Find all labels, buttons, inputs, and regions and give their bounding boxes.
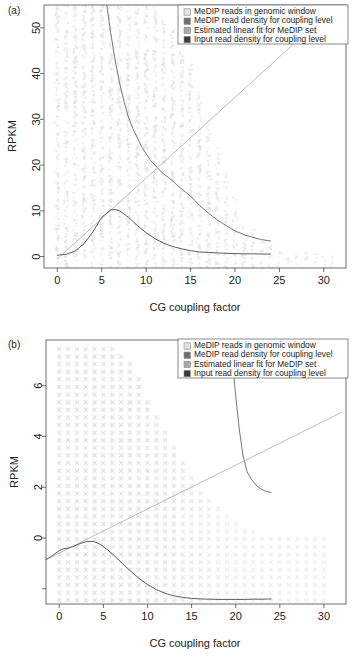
scatter-marker (138, 102, 140, 104)
scatter-marker (63, 142, 65, 144)
scatter-marker (154, 141, 156, 143)
scatter-marker (75, 522, 79, 526)
scatter-marker (90, 262, 92, 264)
scatter-marker (83, 90, 85, 92)
scatter-marker (83, 128, 85, 130)
scatter-marker (172, 257, 174, 259)
scatter-marker (190, 507, 194, 511)
scatter-marker (163, 514, 167, 518)
scatter-marker (269, 583, 273, 587)
scatter-marker (84, 408, 88, 412)
plot-frame (44, 5, 346, 268)
scatter-marker (84, 362, 88, 366)
scatter-marker (110, 189, 112, 191)
scatter-marker (129, 21, 131, 23)
scatter-marker (129, 61, 131, 63)
scatter-marker (171, 80, 173, 82)
scatter-marker (163, 446, 167, 450)
scatter-marker (198, 104, 200, 106)
scatter-marker (74, 19, 76, 21)
scatter-marker (92, 28, 94, 30)
scatter-marker (108, 156, 110, 158)
scatter-marker (163, 152, 165, 154)
scatter-marker (172, 236, 174, 238)
scatter-marker (164, 120, 166, 122)
scatter-marker (64, 215, 66, 217)
scatter-marker (191, 129, 193, 131)
scatter-marker (58, 208, 60, 210)
scatter-marker (58, 79, 60, 81)
scatter-marker (73, 48, 75, 50)
scatter-marker (225, 530, 229, 534)
scatter-marker (154, 262, 156, 264)
scatter-marker (73, 238, 75, 240)
scatter-marker (153, 175, 155, 177)
scatter-marker (91, 137, 93, 139)
scatter-marker (251, 245, 253, 247)
scatter-marker (57, 18, 59, 20)
scatter-marker (101, 400, 105, 404)
scatter-marker (66, 568, 70, 572)
scatter-marker (216, 545, 220, 549)
scatter-marker (199, 252, 201, 254)
scatter-marker (135, 52, 137, 54)
scatter-marker (162, 216, 164, 218)
scatter-marker (180, 59, 182, 61)
scatter-marker (295, 256, 297, 258)
scatter-marker (161, 212, 163, 214)
scatter-marker (146, 217, 148, 219)
scatter-marker (232, 247, 234, 249)
scatter-marker (84, 370, 88, 374)
scatter-marker (200, 168, 202, 170)
scatter-marker (64, 200, 66, 202)
scatter-marker (260, 262, 262, 264)
scatter-marker (144, 243, 146, 245)
scatter-marker (65, 161, 67, 163)
scatter-marker (55, 195, 57, 197)
scatter-marker (75, 362, 79, 366)
scatter-marker (189, 211, 191, 213)
scatter-marker (66, 583, 70, 587)
scatter-marker (82, 204, 84, 206)
scatter-marker (235, 212, 237, 214)
scatter-marker (156, 24, 158, 26)
scatter-marker (188, 109, 190, 111)
scatter-marker (260, 583, 264, 587)
scatter-marker (83, 147, 85, 149)
scatter-marker (57, 598, 61, 602)
scatter-marker (135, 68, 137, 70)
scatter-marker (154, 598, 158, 602)
scatter-marker (145, 484, 149, 488)
scatter-marker (127, 232, 129, 234)
scatter-marker (322, 568, 326, 572)
scatter-marker (110, 484, 114, 488)
scatter-marker (181, 522, 185, 526)
scatter-marker (128, 423, 132, 427)
scatter-marker (56, 262, 58, 264)
scatter-marker (110, 469, 114, 473)
scatter-marker (163, 530, 167, 534)
scatter-marker (287, 568, 291, 572)
scatter-marker (128, 499, 132, 503)
scatter-marker (162, 140, 164, 142)
scatter-marker (101, 469, 105, 473)
scatter-marker (84, 530, 88, 534)
legend-swatch-medip-density (184, 18, 190, 24)
scatter-marker (137, 545, 141, 549)
scatter-marker (243, 598, 247, 602)
scatter-marker (101, 492, 105, 496)
scatter-marker (110, 438, 114, 442)
scatter-marker (99, 157, 101, 159)
scatter-marker (163, 72, 165, 74)
scatter-marker (57, 514, 61, 518)
scatter-marker (153, 93, 155, 95)
scatter-marker (304, 575, 308, 579)
scatter-marker (226, 251, 228, 253)
scatter-marker (129, 167, 131, 169)
scatter-marker (216, 583, 220, 587)
scatter-marker (173, 185, 175, 187)
x-tick-label: 15 (184, 274, 196, 286)
scatter-marker (154, 507, 158, 511)
scatter-marker (232, 196, 234, 198)
scatter-marker (57, 560, 61, 564)
